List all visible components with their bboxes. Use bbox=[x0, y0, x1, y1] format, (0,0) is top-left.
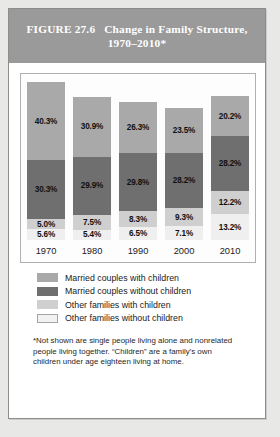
bar-segment-value: 6.5% bbox=[129, 229, 147, 238]
bar-column[interactable]: 23.5%28.2%9.3%7.1% bbox=[165, 108, 203, 240]
chart-plot-panel: 40.3%30.3%5.0%5.6%30.9%29.9%7.5%5.4%26.3… bbox=[20, 73, 256, 263]
legend-item[interactable]: Other families without children bbox=[37, 312, 253, 326]
bar-segment[interactable]: 30.3% bbox=[27, 160, 65, 219]
bar-segment[interactable]: 28.2% bbox=[211, 136, 249, 191]
bar-segment[interactable]: 9.3% bbox=[165, 208, 203, 226]
bar-segment-value: 12.2% bbox=[219, 198, 241, 207]
bar-segment[interactable]: 20.2% bbox=[211, 96, 249, 135]
x-axis-tick-label: 2010 bbox=[211, 246, 249, 256]
bar-segment-value: 13.2% bbox=[219, 223, 241, 232]
bars-area: 40.3%30.3%5.0%5.6%30.9%29.9%7.5%5.4%26.3… bbox=[27, 80, 249, 240]
legend-item-label: Married couples with children bbox=[65, 273, 179, 283]
legend-item[interactable]: Married couples with children bbox=[37, 271, 253, 285]
bar-segment[interactable]: 29.9% bbox=[73, 157, 111, 215]
bar-segment-value: 5.4% bbox=[83, 230, 101, 239]
bar-segment-value: 26.3% bbox=[127, 123, 149, 132]
bar-segment-value: 9.3% bbox=[175, 213, 193, 222]
figure-header: FIGURE 27.6Change in Family Structure, 1… bbox=[9, 9, 265, 63]
legend-item[interactable]: Married couples without children bbox=[37, 285, 253, 299]
bar-segment[interactable]: 6.5% bbox=[119, 227, 157, 240]
legend-swatch bbox=[37, 314, 58, 323]
bar-segment[interactable]: 5.4% bbox=[73, 230, 111, 241]
x-axis-tick-label: 1990 bbox=[119, 246, 157, 256]
figure-card: FIGURE 27.6Change in Family Structure, 1… bbox=[8, 8, 266, 419]
bar-segment-value: 5.0% bbox=[37, 220, 55, 229]
bar-segment[interactable]: 40.3% bbox=[27, 82, 65, 160]
legend-swatch bbox=[37, 300, 58, 309]
legend-swatch bbox=[37, 287, 58, 296]
bar-segment-value: 28.2% bbox=[219, 159, 241, 168]
bar-segment[interactable]: 5.6% bbox=[27, 229, 65, 240]
bar-segment-value: 20.2% bbox=[219, 112, 241, 121]
bar-segment-value: 7.1% bbox=[175, 229, 193, 238]
legend-item-label: Other families with children bbox=[65, 300, 171, 310]
legend-swatch bbox=[37, 273, 58, 282]
bar-column[interactable]: 20.2%28.2%12.2%13.2% bbox=[211, 96, 249, 240]
bar-segment[interactable]: 26.3% bbox=[119, 102, 157, 153]
x-axis-tick-label: 2000 bbox=[165, 246, 203, 256]
x-axis: 19701980199020002010 bbox=[27, 242, 249, 260]
bar-segment[interactable]: 29.8% bbox=[119, 153, 157, 211]
chart-legend: Married couples with childrenMarried cou… bbox=[37, 271, 253, 325]
bar-segment-value: 29.8% bbox=[127, 178, 149, 187]
bar-segment[interactable]: 28.2% bbox=[165, 153, 203, 208]
bar-segment[interactable]: 30.9% bbox=[73, 97, 111, 157]
bar-segment-value: 28.2% bbox=[173, 176, 195, 185]
legend-item[interactable]: Other families with children bbox=[37, 298, 253, 312]
bar-segment[interactable]: 12.2% bbox=[211, 191, 249, 215]
bar-segment[interactable]: 7.5% bbox=[73, 215, 111, 230]
bar-segment[interactable]: 7.1% bbox=[165, 226, 203, 240]
legend-item-label: Other families without children bbox=[65, 313, 183, 323]
bar-segment[interactable]: 23.5% bbox=[165, 108, 203, 154]
legend-item-label: Married couples without children bbox=[65, 286, 191, 296]
figure-title: FIGURE 27.6Change in Family Structure, 1… bbox=[23, 22, 251, 51]
bar-segment[interactable]: 8.3% bbox=[119, 211, 157, 227]
bar-column[interactable]: 26.3%29.8%8.3%6.5% bbox=[119, 102, 157, 240]
bar-column[interactable]: 40.3%30.3%5.0%5.6% bbox=[27, 82, 65, 240]
x-axis-tick-label: 1980 bbox=[73, 246, 111, 256]
bar-segment-value: 30.9% bbox=[81, 122, 103, 131]
bar-segment-value: 30.3% bbox=[35, 185, 57, 194]
bar-segment-value: 7.5% bbox=[83, 218, 101, 227]
bar-segment-value: 5.6% bbox=[37, 230, 55, 239]
bar-segment-value: 29.9% bbox=[81, 181, 103, 190]
figure-title-text: Change in Family Structure, 1970–2010* bbox=[104, 23, 247, 50]
bar-segment-value: 40.3% bbox=[35, 117, 57, 126]
bar-segment-value: 8.3% bbox=[129, 215, 147, 224]
figure-footnote: *Not shown are single people living alon… bbox=[33, 336, 239, 368]
figure-number: FIGURE 27.6 bbox=[27, 23, 96, 35]
x-axis-tick-label: 1970 bbox=[27, 246, 65, 256]
bar-segment[interactable]: 5.0% bbox=[27, 219, 65, 229]
bar-segment-value: 23.5% bbox=[173, 126, 195, 135]
bar-segment[interactable]: 13.2% bbox=[211, 214, 249, 240]
bar-column[interactable]: 30.9%29.9%7.5%5.4% bbox=[73, 97, 111, 240]
